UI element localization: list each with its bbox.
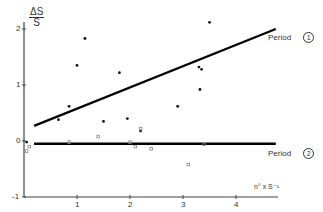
- data-point: [57, 118, 60, 121]
- data-point: [176, 105, 179, 108]
- legend-period-2: Period2: [268, 148, 314, 159]
- fit-line-1: [34, 29, 276, 126]
- data-point: [126, 117, 129, 120]
- x-tick-label: 3: [181, 201, 185, 209]
- data-point: [25, 141, 28, 144]
- data-point: [68, 141, 71, 144]
- y-tick-label: -1: [12, 193, 19, 201]
- data-point: [134, 145, 137, 148]
- data-point: [84, 37, 87, 40]
- y-tick-label: 0: [16, 137, 20, 145]
- x-tick-label: 4: [234, 201, 238, 209]
- data-point: [139, 127, 142, 130]
- data-point: [208, 21, 211, 24]
- data-point: [68, 105, 71, 108]
- y-axis-label: ΔS S: [29, 7, 44, 28]
- data-point: [200, 68, 203, 71]
- data-point: [199, 88, 202, 91]
- data-point: [25, 150, 28, 153]
- legend-period-1: Period1: [268, 32, 314, 43]
- y-label-denominator: S: [29, 18, 44, 28]
- circled-number-icon: 1: [303, 32, 314, 43]
- series-layer: [25, 21, 276, 166]
- data-point: [129, 141, 132, 144]
- x-tick-label: 1: [75, 201, 79, 209]
- data-point: [28, 145, 31, 148]
- axes: [22, 22, 278, 199]
- data-point: [102, 120, 105, 123]
- legend-label: Period: [268, 33, 291, 42]
- data-point: [187, 163, 190, 166]
- circled-number-icon: 2: [303, 148, 314, 159]
- y-tick-label: 1: [16, 81, 20, 89]
- data-point: [150, 148, 153, 151]
- data-point: [118, 71, 121, 74]
- x-axis-label: n° x S⁻¹: [254, 183, 279, 190]
- x-tick-label: 2: [128, 201, 132, 209]
- data-point: [76, 64, 79, 67]
- data-point: [97, 135, 100, 138]
- legend-label: Period: [268, 148, 291, 157]
- data-point: [198, 66, 201, 69]
- y-tick-label: 2: [16, 25, 20, 33]
